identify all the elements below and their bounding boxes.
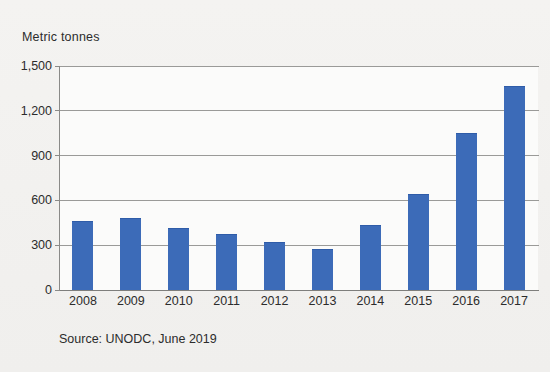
source-note: Source: UNODC, June 2019 [59,332,217,346]
bar [504,86,525,290]
x-axis-labels: 2008200920102011201220132014201520162017 [59,294,538,314]
x-axis-tick-label: 2009 [105,294,157,308]
y-axis-tick-label: 600 [4,193,52,207]
y-axis-labels: 03006009001,2001,500 [0,66,52,290]
y-axis-tick-label: 900 [4,149,52,163]
bar [168,228,189,290]
y-axis-title: Metric tonnes [22,30,100,44]
bars-layer [59,66,538,290]
bar [216,234,237,290]
chart-figure: Metric tonnes 03006009001,2001,500 20082… [0,0,550,372]
x-axis-tick-label: 2012 [249,294,301,308]
x-axis-tick-label: 2011 [201,294,253,308]
bar [360,225,381,290]
x-axis-tick-label: 2017 [488,294,540,308]
bar [120,218,141,290]
bar [456,133,477,290]
x-axis-tick-label: 2013 [296,294,348,308]
bar [312,249,333,291]
y-axis-tick-label: 0 [4,283,52,297]
bar [408,194,429,290]
x-axis-tick-label: 2014 [344,294,396,308]
x-axis-tick-label: 2010 [153,294,205,308]
x-axis-tick-label: 2008 [57,294,109,308]
y-axis-tick-label: 1,200 [4,104,52,118]
x-axis-tick-label: 2016 [440,294,492,308]
bar [72,221,93,290]
x-axis-tick-label: 2015 [392,294,444,308]
y-axis-tick-label: 300 [4,238,52,252]
y-axis-tick-label: 1,500 [4,59,52,73]
bar [264,242,285,290]
